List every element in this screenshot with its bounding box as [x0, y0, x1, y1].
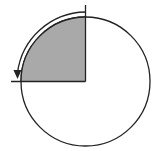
- shaded-quadrant: [21, 17, 86, 82]
- quarter-circle-diagram: [0, 0, 157, 151]
- arrowhead-icon: [14, 70, 22, 79]
